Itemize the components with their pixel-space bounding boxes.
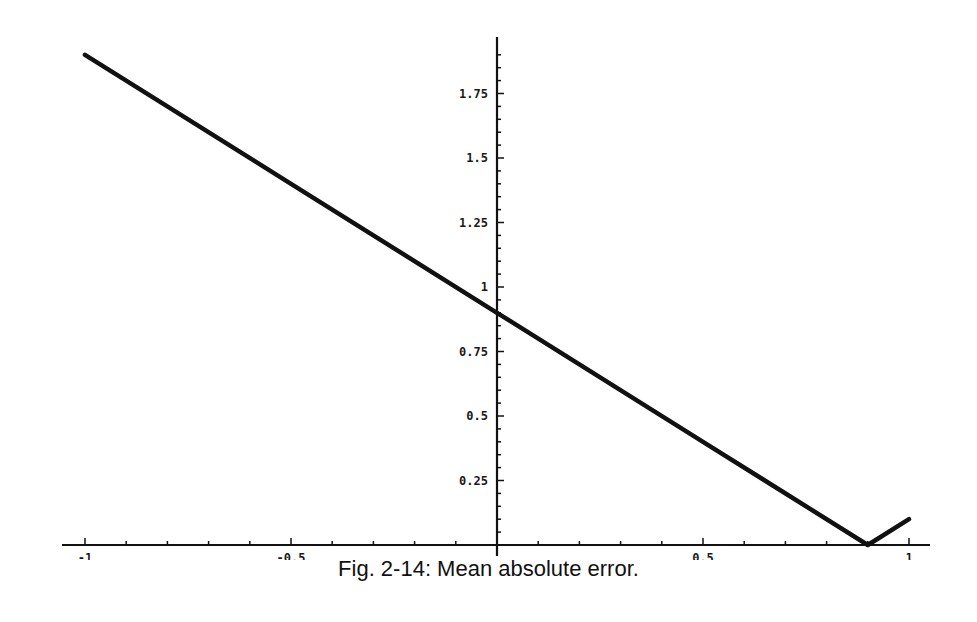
figure-caption: Fig. 2-14: Mean absolute error. [0,556,977,582]
axes [62,37,930,556]
y-tick-label: 0.75 [459,345,488,359]
chart: -1-0.50.510.250.50.7511.251.51.75 [0,0,977,560]
tick-labels: -1-0.50.510.250.50.7511.251.51.75 [78,87,913,561]
y-tick-label: 0.25 [459,474,488,488]
y-tick-label: 1 [481,280,488,294]
y-tick-label: 1.5 [466,151,488,165]
y-tick-label: 1.25 [459,216,488,230]
y-tick-label: 0.5 [466,409,488,423]
y-tick-label: 1.75 [459,87,488,101]
